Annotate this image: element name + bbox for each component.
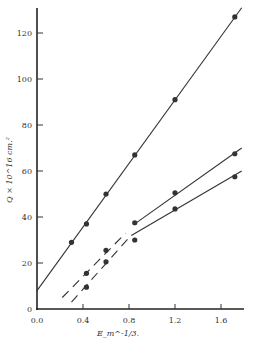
- series-lines: [37, 8, 242, 302]
- fit-line-lower: [131, 171, 241, 235]
- data-point-lower: [84, 285, 89, 290]
- data-point-upper: [69, 240, 74, 245]
- data-point-middle: [132, 220, 137, 225]
- x-ticks: 0.00.40.81.21.6: [31, 304, 228, 325]
- data-point-upper: [132, 152, 137, 157]
- fit-line-upper: [37, 8, 242, 291]
- y-tick-label: 120: [17, 29, 32, 38]
- y-tick-label: 0: [27, 305, 32, 314]
- data-point-middle: [172, 190, 177, 195]
- x-tick-label: 1.2: [169, 316, 182, 325]
- data-point-lower: [103, 259, 108, 264]
- data-point-middle: [232, 151, 237, 156]
- data-point-middle: [84, 271, 89, 276]
- chart: 0.00.40.81.21.6 020406080100120 E_m^-1/3…: [0, 0, 253, 343]
- y-ticks: 020406080100120: [17, 29, 43, 314]
- fit-line-middle: [135, 148, 242, 224]
- x-tick-label: 0.8: [123, 316, 136, 325]
- x-tick-label: 0.4: [77, 316, 90, 325]
- data-point-upper: [232, 14, 237, 19]
- y-tick-label: 100: [17, 75, 32, 84]
- data-points: [69, 14, 238, 289]
- y-tick-label: 40: [22, 213, 32, 222]
- x-axis-label: E_m^-1/3.: [96, 329, 139, 338]
- dashed-line-lower: [72, 238, 130, 302]
- data-point-middle: [103, 248, 108, 253]
- y-tick-label: 20: [22, 259, 32, 268]
- y-tick-label: 60: [22, 167, 32, 176]
- data-point-upper: [103, 191, 108, 196]
- axes: [36, 8, 244, 310]
- data-point-lower: [132, 237, 137, 242]
- y-tick-label: 80: [22, 121, 32, 130]
- data-point-lower: [232, 174, 237, 179]
- y-axis-label: Q × 10^16 cm.²: [5, 137, 14, 203]
- x-tick-label: 1.6: [215, 316, 228, 325]
- x-tick-label: 0.0: [31, 316, 44, 325]
- data-point-lower: [172, 206, 177, 211]
- data-point-upper: [84, 221, 89, 226]
- data-point-upper: [172, 97, 177, 102]
